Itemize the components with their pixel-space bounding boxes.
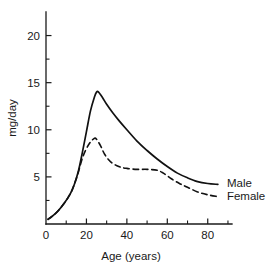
y-tick-label: 15 xyxy=(27,77,40,89)
chart-text-labels: 0204060805101520Age (years)mg/dayMaleFem… xyxy=(6,30,265,262)
chart-series xyxy=(48,91,218,219)
x-tick-label: 20 xyxy=(80,229,93,241)
series-line-female xyxy=(48,138,218,219)
x-tick-label: 40 xyxy=(120,229,133,241)
chart-plot-area: 0204060805101520Age (years)mg/dayMaleFem… xyxy=(0,0,266,266)
chart-figure: 0204060805101520Age (years)mg/dayMaleFem… xyxy=(0,0,266,266)
chart-ticks xyxy=(46,36,228,224)
x-tick-label: 0 xyxy=(43,229,49,241)
y-tick-label: 5 xyxy=(34,171,40,183)
series-label-male: Male xyxy=(227,177,252,189)
y-axis-title: mg/day xyxy=(6,99,18,137)
chart-axes xyxy=(46,12,232,224)
series-label-female: Female xyxy=(227,190,265,202)
series-line-male xyxy=(48,91,218,219)
x-axis-title: Age (years) xyxy=(101,250,161,262)
x-tick-label: 60 xyxy=(161,229,174,241)
y-tick-label: 20 xyxy=(27,30,40,42)
x-tick-label: 80 xyxy=(201,229,214,241)
y-tick-label: 10 xyxy=(27,124,40,136)
